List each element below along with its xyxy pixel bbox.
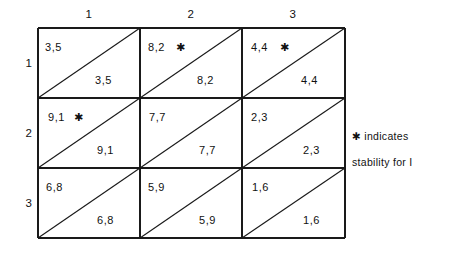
- column-header-3: 3: [273, 9, 313, 21]
- cell-r2c2-lower-right: 7,7: [199, 145, 216, 156]
- row-header-1: 1: [21, 58, 37, 70]
- cell-r2c1-lower-right: 9,1: [97, 145, 114, 156]
- cell-r1c2-upper-left: 8,2: [148, 42, 165, 53]
- stability-star-r1c3: ✱: [280, 42, 289, 53]
- cell-r3c2-lower-right: 5,9: [199, 215, 216, 226]
- cell-diagonal-r3c1: [38, 168, 140, 238]
- cell-r2c3-upper-left: 2,3: [251, 112, 268, 123]
- cell-r1c2-lower-right: 8,2: [197, 75, 214, 86]
- cell-diagonal-r2c2: [140, 98, 242, 168]
- cell-r1c3-lower-right: 4,4: [301, 75, 318, 86]
- cell-r3c1-lower-right: 6,8: [97, 215, 114, 226]
- cell-diagonal-r1c1: [38, 28, 140, 98]
- stability-star-r2c1: ✱: [74, 112, 83, 123]
- legend: ✱ indicates stability for I: [352, 117, 456, 182]
- cell-r1c1-lower-right: 3,5: [95, 75, 112, 86]
- cell-r1c3-upper-left: 4,4: [251, 42, 268, 53]
- cell-diagonal-r1c2: [140, 28, 242, 98]
- figure-canvas: 1 2 3 1 2 3 3,5 3,5 8,2 ✱ 8,2 4,4 ✱ 4,4 …: [0, 0, 456, 253]
- column-header-2: 2: [171, 9, 211, 21]
- cell-diagonal-r2c1: [38, 98, 140, 168]
- cell-diagonal-r2c3: [242, 98, 345, 168]
- stability-star-r1c2: ✱: [176, 42, 185, 53]
- cell-diagonal-r3c3: [242, 168, 345, 238]
- cell-diagonal-r3c2: [140, 168, 242, 238]
- cell-r2c3-lower-right: 2,3: [303, 145, 320, 156]
- cell-r2c1-upper-left: 9,1: [48, 112, 65, 123]
- cell-diagonal-r1c3: [242, 28, 345, 98]
- column-header-1: 1: [69, 9, 109, 21]
- cell-r3c2-upper-left: 5,9: [148, 182, 165, 193]
- row-header-3: 3: [21, 198, 37, 210]
- cell-r1c1-upper-left: 3,5: [45, 42, 62, 53]
- legend-line-2: stability for I: [352, 156, 456, 169]
- row-header-2: 2: [21, 128, 37, 140]
- cell-r2c2-upper-left: 7,7: [149, 112, 166, 123]
- cell-r3c3-lower-right: 1,6: [303, 215, 320, 226]
- legend-line-1: ✱ indicates: [352, 130, 456, 143]
- cell-r3c3-upper-left: 1,6: [252, 182, 269, 193]
- cell-r3c1-upper-left: 6,8: [46, 182, 63, 193]
